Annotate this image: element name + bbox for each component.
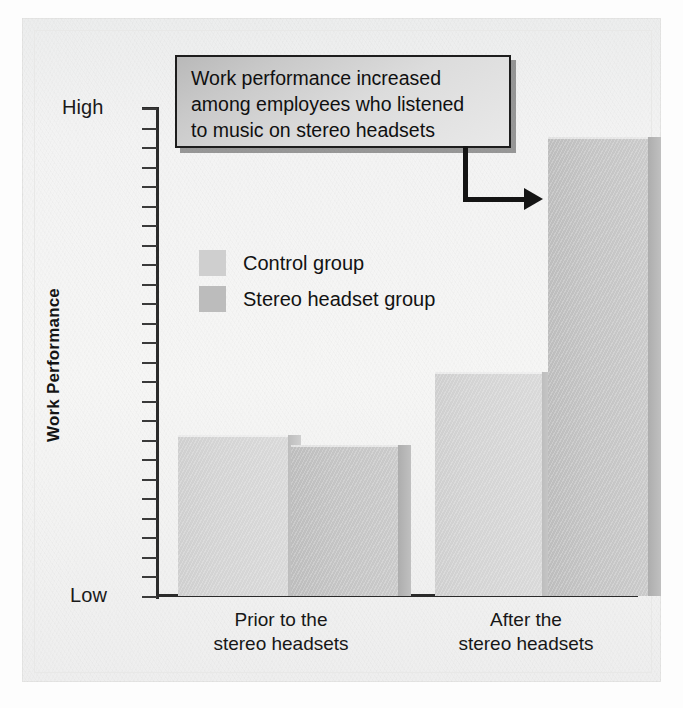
y-axis-tick — [142, 225, 157, 227]
category-0-line-1: Prior to the — [166, 608, 396, 632]
y-axis-tick — [142, 323, 157, 325]
callout-arrow-head-icon — [524, 188, 543, 210]
callout-text: Work performance increased among employe… — [191, 66, 503, 144]
y-axis-tick — [142, 147, 157, 149]
x-axis-category-label-0: Prior to the stereo headsets — [166, 608, 396, 656]
scanned-figure: High Low Work Performance Prior to the s… — [0, 0, 683, 708]
category-0-line-2: stereo headsets — [166, 632, 396, 656]
callout-line-1: Work performance increased — [191, 66, 503, 92]
y-axis-tick — [142, 420, 157, 422]
y-axis-high-label: High — [62, 96, 104, 119]
bar-face — [435, 372, 542, 596]
bar-top-highlight — [435, 372, 542, 374]
bar-top-highlight — [291, 445, 398, 447]
bar-control-group-0 — [178, 435, 288, 596]
y-axis-tick — [142, 108, 157, 110]
y-axis-tick — [142, 362, 157, 364]
callout-line-2: among employees who listened — [191, 92, 503, 118]
y-axis-tick — [142, 264, 157, 266]
y-axis-tick — [142, 479, 157, 481]
y-axis-line — [156, 107, 159, 599]
bar-top-highlight — [548, 137, 648, 139]
y-axis-tick — [142, 557, 157, 559]
light-gray-swatch — [199, 250, 226, 276]
y-axis-tick — [142, 245, 157, 247]
legend-label-0: Control group — [243, 252, 364, 275]
y-axis-tick — [142, 303, 157, 305]
y-axis-tick — [142, 128, 157, 130]
bar-side-shade — [398, 445, 411, 596]
bar-stereo-headset-group-1 — [548, 137, 648, 596]
chart-legend: Control groupStereo headset group — [199, 245, 435, 317]
y-axis-tick — [142, 401, 157, 403]
y-axis-tick — [142, 342, 157, 344]
y-axis-tick — [142, 167, 157, 169]
bar-chart: High Low Work Performance Prior to the s… — [0, 0, 683, 708]
y-axis-tick — [142, 440, 157, 442]
dark-gray-swatch — [199, 286, 226, 312]
bar-control-group-1 — [435, 372, 542, 596]
x-axis-category-label-1: After the stereo headsets — [411, 608, 641, 656]
y-axis-tick — [142, 186, 157, 188]
category-1-line-1: After the — [411, 608, 641, 632]
y-axis-title: Work Performance — [44, 265, 64, 465]
bar-face — [548, 137, 648, 596]
y-axis-tick — [142, 284, 157, 286]
y-axis-tick — [142, 206, 157, 208]
y-axis-tick — [142, 537, 157, 539]
y-axis-tick — [142, 381, 157, 383]
y-axis-low-label: Low — [70, 584, 107, 607]
legend-item-0: Control group — [199, 245, 435, 281]
callout-box: Work performance increased among employe… — [175, 55, 511, 148]
callout-line-3: to music on stereo headsets — [191, 118, 503, 144]
callout-arrow-vertical-segment — [463, 146, 468, 202]
y-axis-tick — [142, 596, 157, 598]
bar-stereo-headset-group-0 — [291, 445, 398, 596]
y-axis-tick — [142, 518, 157, 520]
y-axis-tick — [142, 459, 157, 461]
bar-face — [291, 445, 398, 596]
bar-side-shade — [648, 137, 661, 596]
legend-item-1: Stereo headset group — [199, 281, 435, 317]
callout-arrow-horizontal-segment — [463, 197, 526, 202]
y-axis-tick — [142, 576, 157, 578]
y-axis-tick — [142, 498, 157, 500]
legend-label-1: Stereo headset group — [243, 288, 435, 311]
bar-face — [178, 435, 288, 596]
category-1-line-2: stereo headsets — [411, 632, 641, 656]
bar-top-highlight — [178, 435, 288, 437]
